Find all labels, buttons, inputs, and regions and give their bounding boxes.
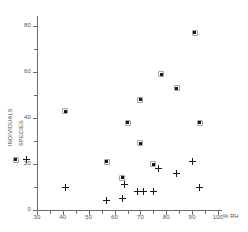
data-point-individuals [193,31,196,34]
data-point-species [189,158,196,165]
data-point-species [155,165,162,172]
data-point-individuals [126,121,129,124]
data-point-individuals [121,176,124,179]
data-point-individuals [160,73,163,76]
data-point-individuals [139,142,142,145]
data-point-species [103,197,110,204]
data-point-species [150,188,157,195]
data-point-individuals [175,87,178,90]
data-point-individuals [105,160,108,163]
data-point-species [119,195,126,202]
data-point-individuals [139,98,142,101]
data-point-species [140,188,147,195]
data-point-species [173,170,180,177]
data-point-individuals [64,110,67,113]
data-point-species [121,181,128,188]
data-point-species [62,184,69,191]
scatter-chart: 020406080 30405060708090100 % RH INDIVID… [0,0,248,232]
plot-area [0,0,248,232]
data-point-individuals [198,121,201,124]
data-point-species [196,184,203,191]
